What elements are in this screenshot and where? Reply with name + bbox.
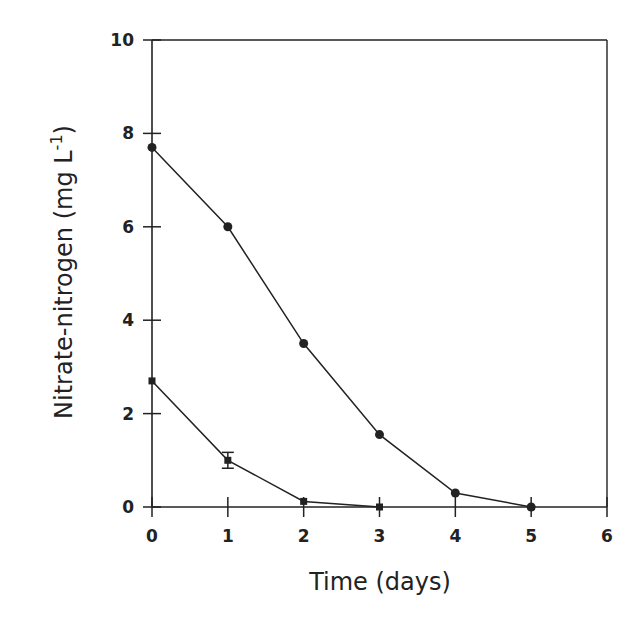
series-line: [152, 147, 531, 507]
data-point-circle: [451, 488, 460, 497]
y-tick-label: 4: [122, 310, 134, 330]
series-circles: [148, 143, 536, 512]
x-tick-label: 5: [525, 526, 537, 546]
y-tick-label: 10: [110, 30, 134, 50]
series-line: [152, 381, 380, 507]
data-point-square: [300, 498, 307, 505]
x-tick-label: 1: [222, 526, 234, 546]
y-tick-label: 6: [122, 217, 134, 237]
x-tick-label: 4: [449, 526, 461, 546]
x-tick-label: 6: [601, 526, 613, 546]
data-point-circle: [299, 339, 308, 348]
x-tick-label: 3: [374, 526, 386, 546]
data-point-circle: [527, 503, 536, 512]
data-point-square: [224, 457, 231, 464]
data-point-circle: [148, 143, 157, 152]
x-tick-label: 0: [146, 526, 158, 546]
y-tick-label: 8: [122, 123, 134, 143]
y-axis-ticks: 0246810: [110, 30, 161, 517]
y-axis-title: Nitrate-nitrogen (mg L-1): [47, 125, 78, 419]
x-tick-label: 2: [298, 526, 310, 546]
x-axis-title: Time (days): [308, 568, 451, 596]
data-point-circle: [375, 430, 384, 439]
chart: 0246810 0123456 Time (days) Nitrate-nitr…: [0, 0, 644, 626]
data-point-square: [149, 377, 156, 384]
data-point-circle: [223, 222, 232, 231]
y-tick-label: 0: [122, 497, 134, 517]
y-tick-label: 2: [122, 404, 134, 424]
data-series: [148, 143, 536, 512]
data-point-square: [376, 504, 383, 511]
